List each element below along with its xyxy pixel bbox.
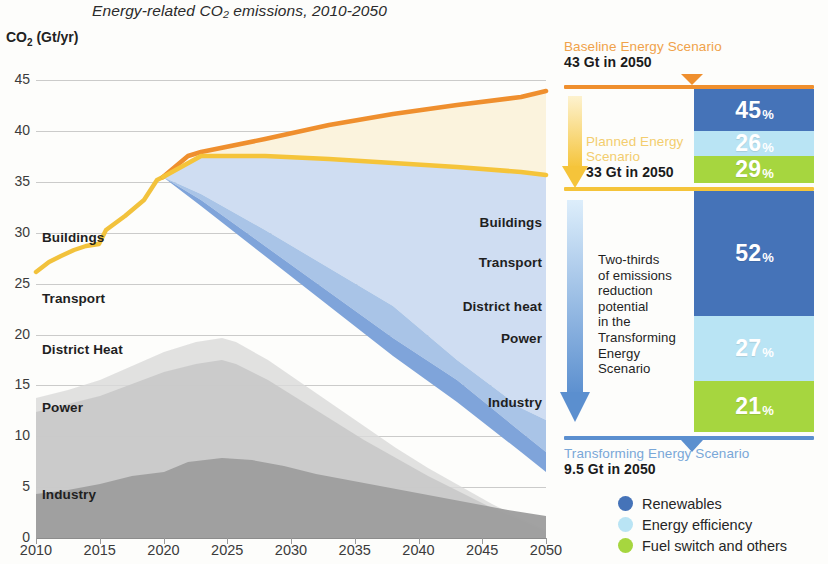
legend-label: Fuel switch and others [642, 538, 787, 554]
y-axis-tick-label: 40 [2, 122, 30, 138]
x-axis-tick-mark [546, 538, 547, 544]
y-axis-tick-label: 20 [2, 326, 30, 342]
planned-gap-bar: 45%26%29% [694, 89, 814, 183]
bar-segment-renewables: 52% [694, 191, 814, 316]
sector-label-left-industry: Industry [42, 487, 96, 502]
plot-area: 051015202530354045 [36, 60, 546, 538]
bar-segment-value: 21 [735, 393, 761, 420]
legend-swatch-icon [618, 496, 633, 511]
reduction-potential-annotation: Two-thirds of emissions reduction potent… [598, 252, 690, 377]
bar-segment-percent-sign: % [762, 250, 774, 265]
bar-segment-fuel-switch-and-others: 21% [694, 381, 814, 432]
planned-scenario-value: 33 Gt in 2050 [586, 164, 683, 180]
transforming-scenario-value: 9.5 Gt in 2050 [564, 461, 749, 477]
transforming-scenario-name: Transforming Energy Scenario [564, 446, 749, 461]
legend: RenewablesEnergy efficiencyFuel switch a… [618, 493, 787, 556]
sector-label-right-industry: Industry [488, 395, 542, 410]
sector-label-right-power: Power [501, 331, 542, 346]
bar-segment-value: 52 [735, 240, 761, 267]
legend-label: Renewables [642, 496, 722, 512]
chart-figure: Energy-related CO₂ emissions, 2010-2050 … [0, 0, 828, 564]
planned-gap-arrow-icon [562, 96, 588, 188]
transforming-scenario-header: Transforming Energy Scenario 9.5 Gt in 2… [564, 446, 749, 477]
baseline-line [163, 91, 546, 177]
transforming-gap-arrow-icon [560, 200, 590, 422]
x-axis-tick-mark [100, 538, 101, 544]
bar-segment-energy-efficiency: 26% [694, 131, 814, 155]
sector-label-left-power: Power [42, 400, 83, 415]
planned-scenario-header: Planned Energy Scenario 33 Gt in 2050 [586, 134, 683, 180]
baseline-scenario-name: Baseline Energy Scenario [564, 39, 722, 54]
baseline-scenario-value: 43 Gt in 2050 [564, 54, 722, 70]
x-axis-tick-label: 2020 [147, 542, 179, 558]
x-axis-tick-mark [36, 538, 37, 544]
bar-segment-percent-sign: % [762, 140, 774, 155]
bar-segment-value: 26 [735, 130, 761, 157]
bar-segment-percent-sign: % [762, 403, 774, 418]
planned-line [163, 156, 546, 177]
x-axis-tick-label: 2030 [275, 542, 307, 558]
planned-scenario-name-line1: Planned Energy [586, 134, 683, 149]
bar-segment-percent-sign: % [762, 345, 774, 360]
history-line [36, 177, 163, 272]
planned-scenario-name-line2: Scenario [586, 149, 683, 164]
y-axis-tick-label: 45 [2, 71, 30, 87]
sector-label-left-buildings: Buildings [42, 230, 104, 245]
y-axis-tick-label: 25 [2, 275, 30, 291]
sector-label-left-district-heat: District Heat [42, 342, 123, 357]
legend-label: Energy efficiency [642, 517, 752, 533]
x-axis-tick-label: 2025 [211, 542, 243, 558]
legend-swatch-icon [618, 517, 633, 532]
y-axis-tick-label: 5 [2, 478, 30, 494]
sector-label-right-district-heat: District heat [463, 299, 542, 314]
x-axis-tick-mark [419, 538, 420, 544]
bar-segment-percent-sign: % [762, 166, 774, 181]
chart-title: Energy-related CO₂ emissions, 2010-2050 [92, 2, 387, 20]
bar-segment-value: 29 [735, 156, 761, 183]
baseline-scenario-header: Baseline Energy Scenario 43 Gt in 2050 [564, 39, 722, 70]
x-axis-tick-label: 2015 [84, 542, 116, 558]
legend-item: Energy efficiency [618, 514, 787, 535]
bar-segment-renewables: 45% [694, 89, 814, 131]
scenario-panel: Baseline Energy Scenario 43 Gt in 2050 P… [550, 0, 828, 564]
sector-label-right-transport: Transport [479, 255, 542, 270]
y-axis-label: CO2 (Gt/yr) [6, 29, 78, 48]
x-axis-tick-mark [355, 538, 356, 544]
y-axis-tick-label: 35 [2, 173, 30, 189]
bar-segment-value: 45 [735, 97, 761, 124]
y-axis-tick-label: 30 [2, 224, 30, 240]
legend-item: Renewables [618, 493, 787, 514]
bar-segment-energy-efficiency: 27% [694, 316, 814, 381]
y-axis-tick-label: 15 [2, 376, 30, 392]
x-axis-tick-mark [291, 538, 292, 544]
bar-segment-percent-sign: % [762, 107, 774, 122]
bar-segment-value: 27 [735, 335, 761, 362]
x-axis-tick-mark [227, 538, 228, 544]
x-axis-tick-label: 2010 [20, 542, 52, 558]
baseline-marker-triangle [681, 74, 703, 85]
bar-segment-fuel-switch-and-others: 29% [694, 156, 814, 183]
x-axis-tick-label: 2045 [466, 542, 498, 558]
x-axis-tick-label: 2035 [339, 542, 371, 558]
sector-label-left-transport: Transport [42, 291, 105, 306]
x-axis-tick-label: 2040 [402, 542, 434, 558]
sector-label-right-buildings: Buildings [480, 215, 542, 230]
y-axis-tick-label: 10 [2, 427, 30, 443]
legend-swatch-icon [618, 538, 633, 553]
x-axis-tick-mark [482, 538, 483, 544]
transforming-gap-bar: 52%27%21% [694, 191, 814, 432]
x-axis-tick-mark [164, 538, 165, 544]
legend-item: Fuel switch and others [618, 535, 787, 556]
